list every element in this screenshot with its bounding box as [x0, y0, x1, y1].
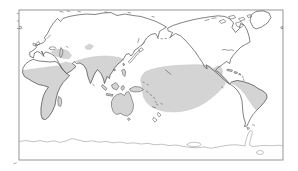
- shaded-region-tropical-pacific-ocean: [141, 65, 226, 112]
- aleutian-islands: [157, 37, 171, 38]
- corner-mark: [14, 163, 17, 164]
- lesser-antilles: [243, 76, 244, 80]
- hispaniola: [234, 72, 238, 74]
- tasmania: [128, 118, 131, 121]
- shaded-regions: [23, 44, 268, 120]
- antarctica-coastline: [19, 130, 283, 148]
- ireland: [33, 43, 35, 46]
- baltic-sea: [47, 35, 51, 39]
- new-guinea: [130, 87, 144, 93]
- antarctica: [19, 130, 283, 155]
- shaded-region-central-asia-patch: [85, 44, 94, 50]
- java: [106, 94, 113, 97]
- shaded-region-sub-saharan-africa: [23, 66, 70, 120]
- black-sea: [49, 47, 56, 50]
- hokkaido: [139, 48, 143, 52]
- taiwan: [123, 63, 125, 66]
- frame-ticks: [14, 14, 20, 164]
- sri-lanka: [93, 85, 94, 86]
- ross-shelf-loop: [187, 142, 201, 146]
- great-lakes: [222, 49, 234, 50]
- tierra-del-fuego: [248, 128, 250, 130]
- sulawesi: [121, 86, 125, 91]
- new-zealand: [153, 113, 161, 123]
- weddell-shelf-loop: [257, 151, 264, 155]
- aral-sea: [67, 47, 69, 48]
- cuba: [227, 69, 233, 72]
- shaded-region-south-asia-southeast-asia: [75, 56, 124, 84]
- kuril-islands: [142, 43, 145, 46]
- falkland-islands: [253, 125, 255, 126]
- madagascar: [58, 97, 62, 107]
- australia: [112, 92, 134, 117]
- borneo: [112, 83, 120, 91]
- sakhalin: [138, 39, 139, 43]
- coastline-greenland: [250, 11, 271, 29]
- sumatra: [102, 85, 108, 91]
- world-distribution-map: [0, 0, 298, 171]
- japan: [129, 51, 141, 63]
- shaded-region-northern-south-america: [232, 81, 268, 111]
- figure-canvas: [0, 0, 298, 171]
- philippines: [122, 69, 126, 77]
- puerto-rico: [239, 74, 241, 76]
